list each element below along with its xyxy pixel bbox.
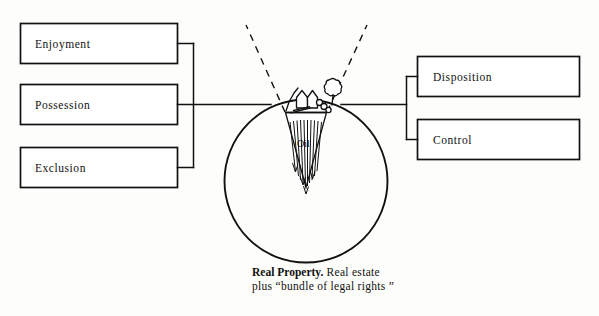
caption-line-2: plus “bundle of legal rights ”: [252, 280, 394, 293]
node-control-label: Control: [433, 134, 472, 146]
node-enjoyment-label: Enjoyment: [35, 38, 91, 51]
caption-bold-term: Real Property.: [252, 266, 323, 279]
right-rights-group: Disposition Control: [341, 57, 580, 160]
node-possession[interactable]: Possession: [21, 85, 178, 125]
caption: Real Property. Real estate plus “bundle …: [252, 266, 394, 293]
surface-scene: [286, 79, 342, 114]
caption-line-1: Real Property. Real estate: [252, 266, 380, 279]
land-wedge: [286, 113, 327, 188]
oil-label: Oil: [297, 138, 310, 149]
left-rights-group: Enjoyment Possession Exclusion: [21, 24, 272, 188]
node-exclusion[interactable]: Exclusion: [21, 148, 178, 188]
node-enjoyment[interactable]: Enjoyment: [21, 24, 178, 64]
caption-line-1-rest: Real estate: [323, 266, 380, 278]
tree-icon: [324, 79, 342, 106]
node-disposition-label: Disposition: [433, 71, 492, 84]
house-icon-2: [308, 91, 318, 109]
node-exclusion-label: Exclusion: [35, 162, 86, 174]
house-icon: [297, 91, 308, 109]
air-rights-ray-left: [246, 25, 285, 112]
earth-illustration: Oil: [225, 25, 388, 263]
node-control[interactable]: Control: [418, 120, 580, 160]
figure-canvas: Enjoyment Possession Exclusion: [0, 0, 599, 316]
node-disposition[interactable]: Disposition: [418, 57, 580, 97]
node-possession-label: Possession: [35, 99, 90, 111]
